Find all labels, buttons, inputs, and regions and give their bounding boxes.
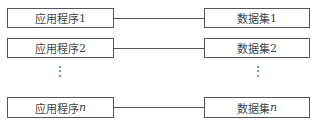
connector-1 [114,18,204,19]
application-2-box: 应用程序2 [7,38,114,58]
application-1-box: 应用程序1 [7,8,114,28]
connector-n [114,107,204,108]
dataset-1-box: 数据集1 [204,8,310,28]
application-2-index: 2 [79,42,86,55]
application-2-label: 应用程序 [35,40,79,56]
dataset-n-box: 数据集n [204,97,310,118]
application-n-label: 应用程序 [35,100,79,116]
application-1-label: 应用程序 [35,10,79,26]
application-n-index: n [79,101,86,114]
dataset-2-box: 数据集2 [204,38,310,58]
right-ellipsis: ⋮ [252,69,262,74]
dataset-2-label: 数据集 [237,40,270,56]
dataset-1-label: 数据集 [237,10,270,26]
application-1-index: 1 [79,12,86,25]
dataset-2-index: 2 [270,42,277,55]
connector-2 [114,48,204,49]
dataset-n-label: 数据集 [237,100,270,116]
left-ellipsis: ⋮ [54,69,64,74]
dataset-1-index: 1 [270,12,277,25]
dataset-n-index: n [270,101,277,114]
application-n-box: 应用程序n [7,97,114,118]
